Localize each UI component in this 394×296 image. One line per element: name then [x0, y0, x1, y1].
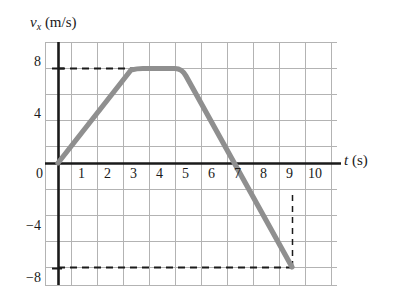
y-tick-label-4: −8 [26, 270, 41, 286]
x-tick-label-6: 7 [234, 166, 241, 182]
x-tick-label-7: 8 [260, 166, 267, 182]
x-tick-label-1: 2 [104, 166, 111, 182]
y-tick-label-2: 0 [36, 166, 43, 182]
y-tick-label-0: 8 [34, 54, 41, 70]
velocity-time-graph-figure: vx (m/s) t (s) 840−4−8 12345678910 [0, 0, 394, 296]
y-axis-label: vx (m/s) [30, 14, 77, 32]
y-tick-label-3: −4 [26, 218, 41, 234]
x-tick-label-3: 4 [156, 166, 163, 182]
x-axis-label: t (s) [344, 152, 368, 169]
x-tick-label-8: 9 [286, 166, 293, 182]
x-tick-label-4: 5 [182, 166, 189, 182]
x-tick-label-9: 10 [308, 166, 322, 182]
x-tick-label-0: 1 [78, 166, 85, 182]
y-axis-label-symbol: v [30, 14, 37, 30]
chart-svg [0, 0, 394, 296]
x-tick-label-2: 3 [130, 166, 137, 182]
x-tick-label-5: 6 [208, 166, 215, 182]
y-axis-label-unit: (m/s) [41, 14, 76, 30]
y-tick-label-1: 4 [34, 106, 41, 122]
x-axis-label-unit: (s) [348, 152, 368, 168]
